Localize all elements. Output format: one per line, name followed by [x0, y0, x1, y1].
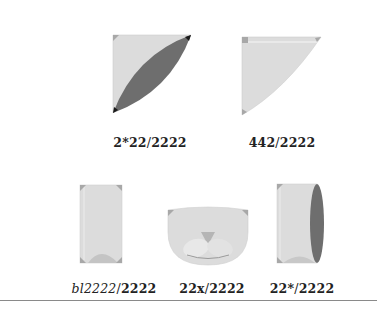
label-shape-2: 442/2222	[249, 135, 316, 150]
shape-442-icon	[242, 37, 321, 115]
label-shape-1: 2*22/2222	[113, 135, 186, 150]
shape-bl2222-icon	[80, 185, 122, 263]
horizontal-rule	[0, 300, 377, 301]
label-suffix: 2222	[151, 135, 187, 150]
label-prefix: 22x	[179, 281, 204, 296]
label-prefix: 2*22	[113, 135, 146, 150]
orbifold-shapes-svg	[0, 0, 377, 317]
label-prefix: 22*	[270, 281, 295, 296]
label-suffix: 2222	[280, 135, 316, 150]
label-suffix: 2222	[209, 281, 245, 296]
label-shape-3: bl2222/2222	[71, 281, 156, 296]
label-prefix: 442	[249, 135, 276, 150]
label-prefix: bl2222	[71, 281, 116, 296]
label-shape-4: 22x/2222	[179, 281, 244, 296]
label-suffix: 2222	[299, 281, 335, 296]
label-suffix: 2222	[121, 281, 157, 296]
shape-22x-icon	[168, 207, 248, 265]
shape-2star22-icon	[113, 35, 191, 113]
shape-22star-icon	[277, 184, 324, 263]
label-shape-5: 22*/2222	[270, 281, 335, 296]
